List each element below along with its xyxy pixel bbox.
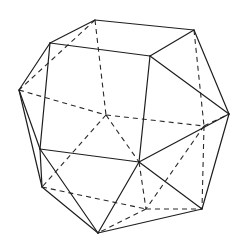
hidden-edge-H1-D [106,115,139,162]
hidden-edge-T1-H1 [95,20,106,115]
visible-edge-L-LL [19,90,42,187]
visible-edge-B-T2 [150,30,194,56]
polyhedron-wireframe [0,0,243,238]
visible-edge-A-L [19,43,50,90]
visible-edge-LL-BOT [42,187,98,233]
visible-edge-A-B [50,43,150,56]
hidden-edge-H3-LR [202,126,204,209]
hidden-edge-T1-L [19,20,95,90]
visible-edge-C-D [40,149,139,162]
hidden-edge-D-H2 [139,162,146,209]
visible-edge-B-D [139,56,150,162]
hidden-edge-H1-H3 [106,115,204,126]
visible-edges [19,20,229,233]
hidden-edge-H3-H2 [146,126,204,209]
visible-edge-A-T1 [50,20,95,43]
hidden-edge-T2-H3 [194,30,204,126]
visible-edge-LR-BOT [98,209,202,233]
visible-edge-C-BOT [40,149,98,233]
hidden-edge-L-H1 [19,90,106,115]
visible-edge-A-C [40,43,50,149]
visible-edge-T1-T2 [95,20,194,30]
visible-edge-D-LR [139,162,202,209]
hidden-edge-LL-H2 [42,187,146,209]
visible-edge-R-LR [202,114,229,209]
visible-edge-R-D [139,114,229,162]
visible-edge-L-C [19,90,40,149]
polyhedron-figure [0,0,243,238]
hidden-edges [19,20,229,233]
